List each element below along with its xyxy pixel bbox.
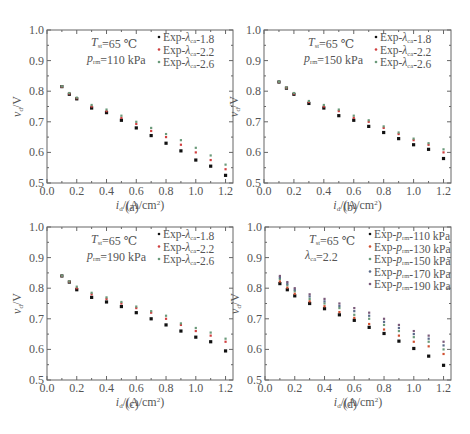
data-point <box>368 312 370 314</box>
data-point <box>150 310 152 312</box>
data-point <box>195 147 197 149</box>
svg-text:Tst=65 ℃: Tst=65 ℃ <box>91 35 137 51</box>
data-point <box>120 115 122 117</box>
svg-text:vd/V: vd/V <box>10 96 25 117</box>
data-point <box>323 300 325 302</box>
data-point <box>195 151 197 153</box>
data-point <box>413 336 415 338</box>
data-point <box>413 330 415 332</box>
data-point <box>120 305 123 308</box>
data-point <box>353 117 355 119</box>
data-point <box>427 142 429 144</box>
svg-text:1.0: 1.0 <box>188 184 203 198</box>
svg-text:0.0: 0.0 <box>40 381 55 395</box>
data-point <box>61 275 63 277</box>
data-point <box>210 154 212 156</box>
data-point <box>164 142 167 145</box>
data-point <box>179 149 182 152</box>
svg-text:1.0: 1.0 <box>29 23 44 37</box>
data-point <box>210 159 212 161</box>
caption-d: (d) <box>330 397 370 412</box>
data-point <box>368 119 370 121</box>
data-point <box>286 281 288 283</box>
data-point <box>323 104 325 106</box>
data-point <box>428 341 430 343</box>
data-point <box>209 165 212 168</box>
svg-text:Exp-λca-2.6: Exp-λca-2.6 <box>380 56 432 70</box>
data-point <box>382 131 385 134</box>
svg-text:0.7: 0.7 <box>29 312 44 326</box>
data-point <box>294 287 296 289</box>
data-point <box>294 293 296 295</box>
data-point <box>278 81 280 83</box>
svg-text:Exp-prm-190 kPa: Exp-prm-190 kPa <box>374 278 451 292</box>
svg-text:0.4: 0.4 <box>317 381 332 395</box>
data-point <box>427 355 430 358</box>
data-point <box>309 293 311 295</box>
data-point <box>309 298 311 300</box>
data-point <box>120 119 123 122</box>
data-point <box>279 280 281 282</box>
chart-a: 0.50.60.70.80.91.00.00.20.40.60.81.01.2i… <box>0 0 235 217</box>
data-point <box>135 311 138 314</box>
data-point <box>135 305 137 307</box>
data-point <box>398 327 400 329</box>
svg-text:0.2: 0.2 <box>287 381 302 395</box>
data-point <box>210 331 212 333</box>
chart-b: 0.50.60.70.80.91.00.00.20.40.60.81.01.2i… <box>218 0 470 217</box>
data-point <box>285 86 287 88</box>
data-point <box>442 157 445 160</box>
data-point <box>180 322 182 324</box>
data-point <box>413 333 415 335</box>
svg-text:1.0: 1.0 <box>406 184 421 198</box>
data-point <box>179 329 182 332</box>
svg-text:0.8: 0.8 <box>29 281 44 295</box>
data-point <box>413 138 415 140</box>
data-point <box>293 92 295 94</box>
data-point <box>353 319 356 322</box>
data-point <box>165 136 167 138</box>
svg-text:0.8: 0.8 <box>376 184 391 198</box>
data-point <box>120 117 122 119</box>
data-point <box>308 100 310 102</box>
data-point <box>383 328 385 330</box>
panel-c: 0.50.60.70.80.91.00.00.20.40.60.81.01.2i… <box>0 197 235 434</box>
svg-text:1.0: 1.0 <box>246 23 261 37</box>
panel-a: 0.50.60.70.80.91.00.00.20.40.60.81.01.2i… <box>0 0 235 217</box>
data-point <box>398 131 400 133</box>
svg-text:0.9: 0.9 <box>246 54 261 68</box>
svg-text:Tst=65 ℃: Tst=65 ℃ <box>309 232 355 248</box>
data-point <box>91 104 93 106</box>
svg-text:0.6: 0.6 <box>346 184 361 198</box>
data-point <box>442 341 444 343</box>
data-point <box>180 139 182 141</box>
svg-text:0.8: 0.8 <box>246 84 261 98</box>
data-point <box>338 302 340 304</box>
svg-text:0.9: 0.9 <box>29 54 44 68</box>
svg-text:0.6: 0.6 <box>347 381 362 395</box>
data-point <box>397 340 400 343</box>
data-point <box>427 148 430 151</box>
svg-text:1.0: 1.0 <box>29 220 44 234</box>
svg-text:0.4: 0.4 <box>99 381 114 395</box>
data-point <box>353 310 355 312</box>
data-point <box>323 302 325 304</box>
svg-text:prm=150 kPa: prm=150 kPa <box>303 51 364 67</box>
svg-text:0.4: 0.4 <box>99 184 114 198</box>
svg-text:vd/V: vd/V <box>227 96 242 117</box>
data-point <box>383 318 385 320</box>
caption-c: (c) <box>112 397 152 412</box>
data-point <box>338 313 341 316</box>
svg-text:0.7: 0.7 <box>247 312 262 326</box>
svg-text:Tst=65 ℃: Tst=65 ℃ <box>91 232 137 248</box>
data-point <box>150 134 153 137</box>
svg-text:0.6: 0.6 <box>247 342 262 356</box>
data-point <box>323 305 325 307</box>
svg-text:1.0: 1.0 <box>406 381 421 395</box>
data-point <box>120 301 122 303</box>
svg-text:0.6: 0.6 <box>246 145 261 159</box>
svg-text:0.6: 0.6 <box>29 145 44 159</box>
data-point <box>442 353 444 355</box>
data-point <box>442 148 444 150</box>
svg-text:vd/V: vd/V <box>228 293 243 314</box>
